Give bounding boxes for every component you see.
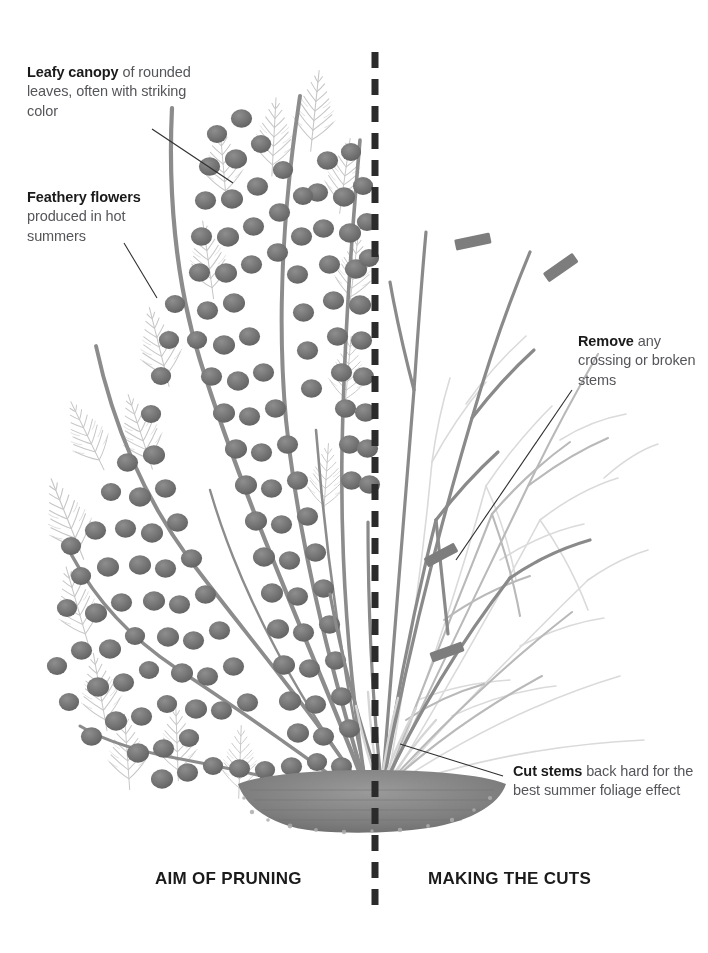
leader-feathery-flowers (124, 243, 157, 298)
cut-marker (429, 641, 464, 662)
cut-marker (454, 232, 492, 250)
panel-caption-aim-of-pruning: AIM OF PRUNING (155, 869, 302, 889)
left-shrub-foliage (30, 68, 380, 806)
primary-stems (330, 232, 590, 790)
callout-leafy-canopy: Leafy canopy of rounded leaves, often wi… (27, 63, 192, 121)
feathery-flower-plumes (30, 68, 377, 799)
mid-tone-stems (384, 354, 608, 788)
mulch-mound (238, 770, 506, 834)
basal-regrowth (356, 692, 436, 792)
callout-leafy-canopy-lead: Leafy canopy (27, 64, 118, 80)
leader-remove-stems (456, 390, 572, 560)
callout-feathery-flowers: Feathery flowers produced in hot summers (27, 188, 187, 246)
leader-leafy-canopy (152, 129, 233, 183)
callout-cut-stems-lead: Cut stems (513, 763, 582, 779)
right-shrub-framework (330, 232, 658, 792)
leader-cut-stems (400, 744, 503, 776)
cut-marker (424, 543, 459, 568)
illustration-artwork (0, 0, 708, 953)
callout-feathery-flowers-rest: produced in hot summers (27, 208, 125, 243)
cut-marker (543, 253, 579, 283)
callout-feathery-flowers-lead: Feathery flowers (27, 189, 141, 205)
cut-position-markers (424, 232, 579, 662)
panel-caption-making-the-cuts: MAKING THE CUTS (428, 869, 591, 889)
pruning-diagram-figure: Leafy canopy of rounded leaves, often wi… (0, 0, 708, 953)
callout-cut-stems: Cut stems back hard for the best summer … (513, 762, 698, 801)
callout-remove-stems: Remove any crossing or broken stems (578, 332, 706, 390)
background-twigs (386, 336, 658, 790)
leader-lines (124, 129, 572, 776)
callout-remove-stems-lead: Remove (578, 333, 634, 349)
